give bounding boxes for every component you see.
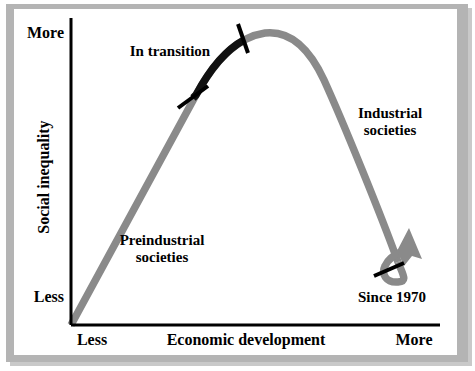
preindustrial-line-1: Preindustrial <box>120 232 205 248</box>
in-transition-label: In transition <box>118 43 222 60</box>
x-axis-title: Economic development <box>148 331 344 349</box>
industrial-societies-label: Industrialsocieties <box>342 105 438 139</box>
preindustrial-line-2: societies <box>136 249 188 265</box>
industrial-line-1: Industrial <box>358 105 422 121</box>
preindustrial-societies-label: Preindustrialsocieties <box>104 232 220 266</box>
y-axis-title: Social inequality <box>35 97 53 257</box>
plot-area <box>0 0 475 371</box>
since-1970-label: Since 1970 <box>344 289 440 306</box>
y-axis-max-label: More <box>16 24 64 42</box>
kuznets-curve-figure: More Less Social inequality Less Economi… <box>0 0 475 371</box>
x-axis-min-label: Less <box>66 331 118 349</box>
y-axis-min-label: Less <box>16 288 64 306</box>
x-axis-max-label: More <box>386 331 442 349</box>
kuznets-curve <box>71 33 398 325</box>
industrial-line-2: societies <box>364 122 416 138</box>
